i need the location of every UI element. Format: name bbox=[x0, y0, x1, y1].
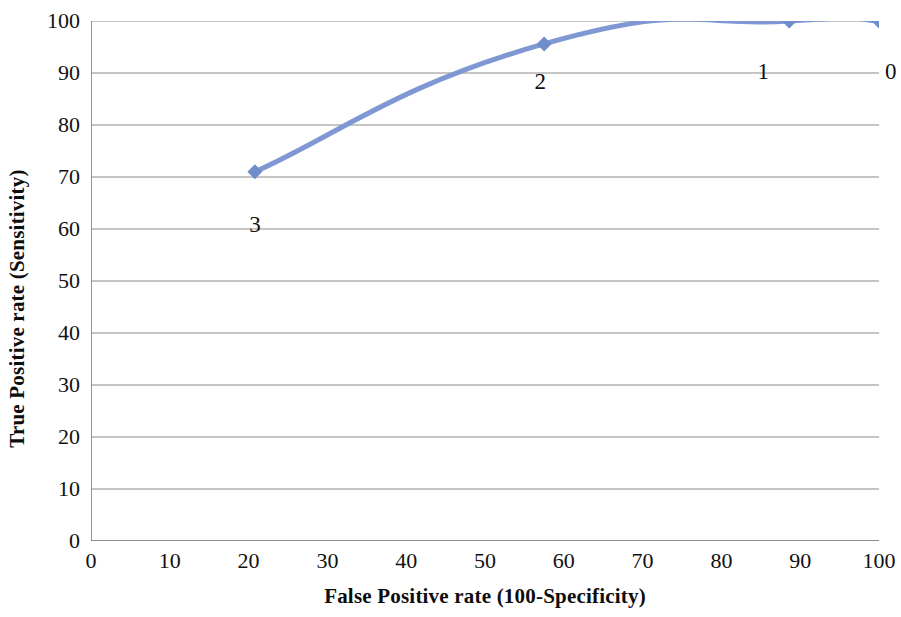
x-tick-label: 80 bbox=[691, 550, 751, 572]
data-point-marker-2 bbox=[537, 36, 552, 51]
x-tick-label: 40 bbox=[376, 550, 436, 572]
y-tick-label: 30 bbox=[20, 374, 80, 396]
x-tick-label: 60 bbox=[534, 550, 594, 572]
y-tick-label: 50 bbox=[20, 270, 80, 292]
data-point-marker-0 bbox=[872, 21, 880, 29]
roc-chart: True Positive rate (Sensitivity) 0102030… bbox=[0, 0, 901, 617]
x-tick-label: 10 bbox=[140, 550, 200, 572]
x-tick-label: 0 bbox=[61, 550, 121, 572]
x-axis-title: False Positive rate (100-Specificity) bbox=[91, 584, 879, 609]
x-tick-label: 20 bbox=[219, 550, 279, 572]
y-tick-label: 90 bbox=[20, 62, 80, 84]
x-tick-label: 100 bbox=[849, 550, 901, 572]
y-tick-label: 100 bbox=[20, 10, 80, 32]
plot-area bbox=[91, 21, 879, 541]
y-tick-label: 70 bbox=[20, 166, 80, 188]
x-axis-tick-labels: 0102030405060708090100 bbox=[91, 550, 879, 580]
y-tick-label: 80 bbox=[20, 114, 80, 136]
x-tick-label: 70 bbox=[613, 550, 673, 572]
plot-svg bbox=[91, 21, 879, 541]
data-point-marker-1 bbox=[782, 21, 797, 29]
y-tick-label: 60 bbox=[20, 218, 80, 240]
gridlines bbox=[91, 21, 879, 541]
y-axis-tick-labels: 0102030405060708090100 bbox=[10, 21, 80, 541]
y-tick-label: 20 bbox=[20, 426, 80, 448]
x-tick-label: 90 bbox=[770, 550, 830, 572]
y-tick-label: 40 bbox=[20, 322, 80, 344]
y-tick-label: 0 bbox=[20, 530, 80, 552]
roc-data-point-markers bbox=[247, 21, 879, 179]
x-tick-label: 30 bbox=[297, 550, 357, 572]
roc-curve-line bbox=[255, 21, 879, 172]
x-tick-label: 50 bbox=[455, 550, 515, 572]
y-tick-label: 10 bbox=[20, 478, 80, 500]
